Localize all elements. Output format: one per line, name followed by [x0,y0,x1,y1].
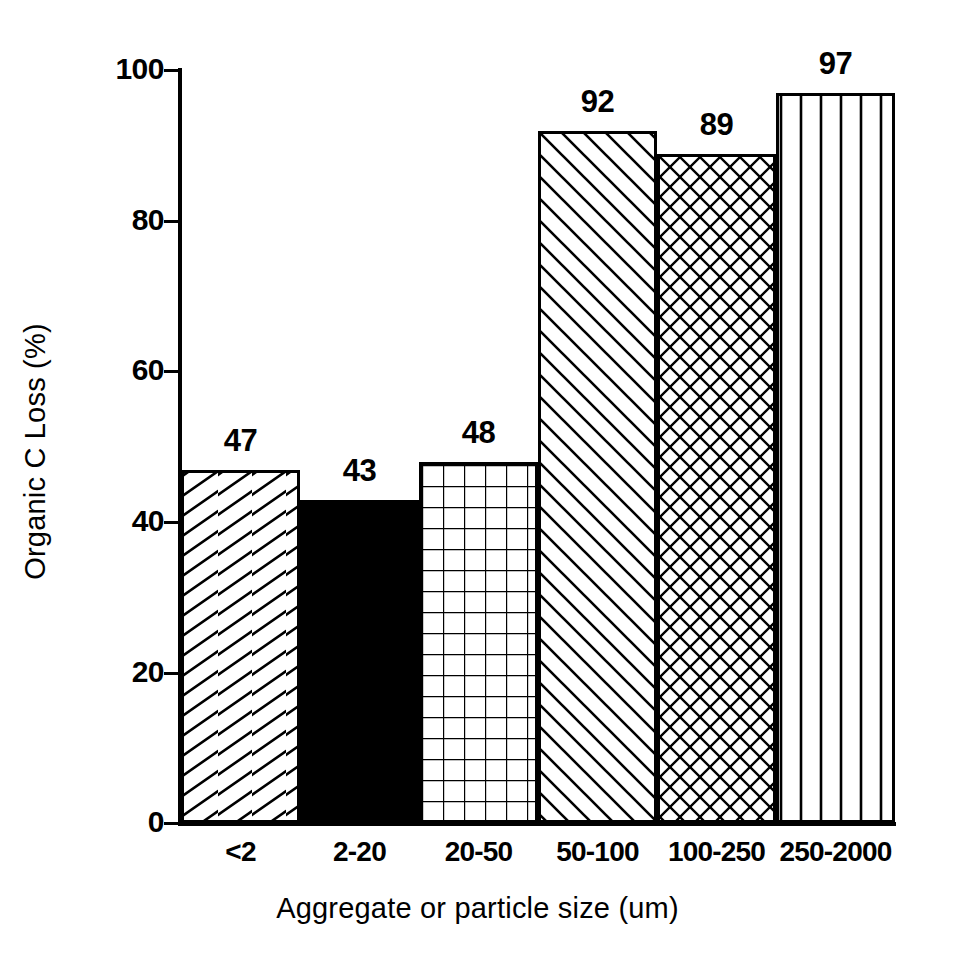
bar-fill-square-grid [422,465,535,820]
bar-fill-diagonal-forward-hatch [184,473,297,820]
x-tick-label-20-50: 20-50 [419,836,538,868]
bar-value-100-250: 89 [657,107,776,143]
bar-100-250 [657,154,776,823]
bar-value-lt2: 47 [181,423,300,459]
bar-250-2000 [776,93,895,823]
bar-20-50 [419,462,538,823]
y-tick-label-0: 0 [74,805,164,839]
x-axis-title: Aggregate or particle size (um) [0,892,955,925]
y-tick-mark-40 [164,521,178,524]
y-tick-mark-60 [164,370,178,373]
bar-fill-vertical-lines [779,96,892,820]
x-tick-label-lt2: <2 [181,836,300,868]
bar-50-100 [538,131,657,823]
bar-fill-diamond-cross-hatch [660,157,773,820]
y-axis-title: Organic C Loss (%) [19,272,52,632]
bar-chart-figure: Organic C Loss (%) Aggregate or particle… [0,0,955,974]
y-tick-mark-80 [164,220,178,223]
y-tick-mark-20 [164,672,178,675]
bar-value-2-20: 43 [300,453,419,489]
y-tick-label-80: 80 [74,203,164,237]
y-tick-label-40: 40 [74,504,164,538]
bar-value-20-50: 48 [419,415,538,451]
bar-value-250-2000: 97 [776,46,895,82]
bar-value-50-100: 92 [538,84,657,120]
x-tick-label-100-250: 100-250 [657,836,776,868]
x-tick-label-2-20: 2-20 [300,836,419,868]
y-tick-mark-100 [164,69,178,72]
x-tick-label-250-2000: 250-2000 [776,836,895,868]
y-tick-label-100: 100 [74,52,164,86]
x-tick-label-50-100: 50-100 [538,836,657,868]
y-tick-label-20: 20 [74,655,164,689]
bar-fill-diagonal-backward-hatch [541,134,654,820]
y-tick-mark-0 [164,822,178,825]
bar-2-20 [300,500,419,823]
bar-lt2 [181,470,300,823]
y-tick-label-60: 60 [74,353,164,387]
